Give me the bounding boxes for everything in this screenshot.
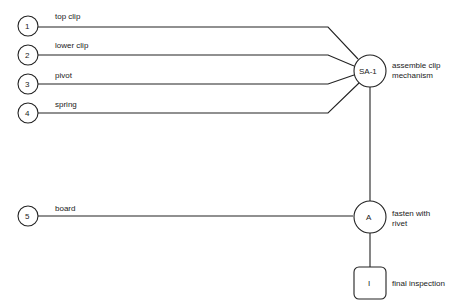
component-label-2: lower clip [55, 41, 88, 50]
inspection-code: I [368, 279, 370, 288]
component-number-5: 5 [25, 212, 29, 221]
flow-line-3 [38, 75, 354, 84]
subassembly-description-1: assemble clip [392, 61, 440, 70]
component-label-5: board [55, 204, 75, 213]
component-label-4: spring [55, 100, 77, 109]
component-number-4: 4 [25, 109, 29, 118]
subassembly-code: SA-1 [359, 67, 377, 76]
component-number-1: 1 [25, 22, 29, 31]
component-number-2: 2 [25, 51, 29, 60]
inspection-description: final inspection [392, 279, 445, 288]
assembly-code: A [366, 213, 371, 222]
flow-line-2 [38, 55, 354, 66]
component-label-3: pivot [55, 71, 72, 80]
subassembly-description-2: mechanism [392, 71, 433, 80]
component-number-3: 3 [25, 80, 29, 89]
assembly-description-2: rivet [392, 219, 407, 228]
component-label-1: top clip [55, 12, 80, 21]
assembly-description-1: fasten with [392, 209, 430, 218]
flow-line-4 [38, 83, 359, 113]
